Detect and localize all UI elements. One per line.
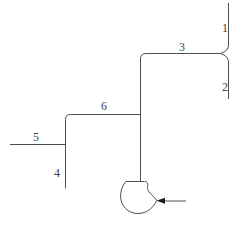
pipe-line-3-and-riser [141,54,221,182]
pipe-network [10,3,229,214]
stream-label-5: 5 [33,130,39,144]
stream-label-1: 1 [222,21,228,35]
stream-label-3: 3 [179,40,185,54]
centrifugal-pump-icon [121,182,157,214]
flow-arrowhead-icon [157,198,166,204]
stream-label-4: 4 [54,166,60,180]
stream-label-6: 6 [101,99,107,113]
piping-diagram: 1 2 3 4 5 6 [0,0,238,229]
stream-label-2: 2 [222,80,228,94]
stream-labels: 1 2 3 4 5 6 [33,21,228,180]
diagram-svg: 1 2 3 4 5 6 [0,0,238,229]
pipe-line-6-and-line-4 [66,115,141,189]
